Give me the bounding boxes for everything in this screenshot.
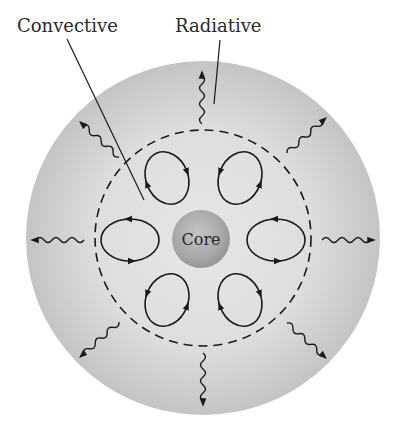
- core-label: Core: [182, 230, 221, 249]
- stellar-interior-diagram: Core: [0, 0, 406, 427]
- radiative-label: Radiative: [175, 15, 262, 36]
- convective-label: Convective: [17, 15, 118, 36]
